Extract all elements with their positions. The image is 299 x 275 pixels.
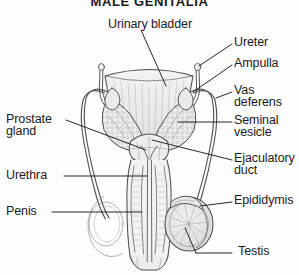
label-ejaculatory-duct-line2: duct xyxy=(234,164,257,177)
label-seminal-vesicle-line2: vesicle xyxy=(234,126,272,139)
label-ampulla: Ampulla xyxy=(234,57,278,70)
label-urinary-bladder: Urinary bladder xyxy=(108,18,192,31)
prostate-gland-shape xyxy=(129,134,169,164)
penis-shape xyxy=(88,160,171,270)
label-ureter: Ureter xyxy=(234,36,268,49)
leader-vas-deferens xyxy=(216,92,232,98)
label-urethra: Urethra xyxy=(6,169,47,182)
label-penis: Penis xyxy=(6,205,37,218)
male-genitalia-diagram: MALE GENITALIA xyxy=(0,0,299,275)
label-epididymis: Epididymis xyxy=(234,194,293,207)
label-vas-deferens-line2: deferens xyxy=(234,96,282,109)
label-testis: Testis xyxy=(238,245,269,258)
leader-ureter xyxy=(199,44,232,66)
label-prostate-gland-line2: gland xyxy=(6,125,36,138)
